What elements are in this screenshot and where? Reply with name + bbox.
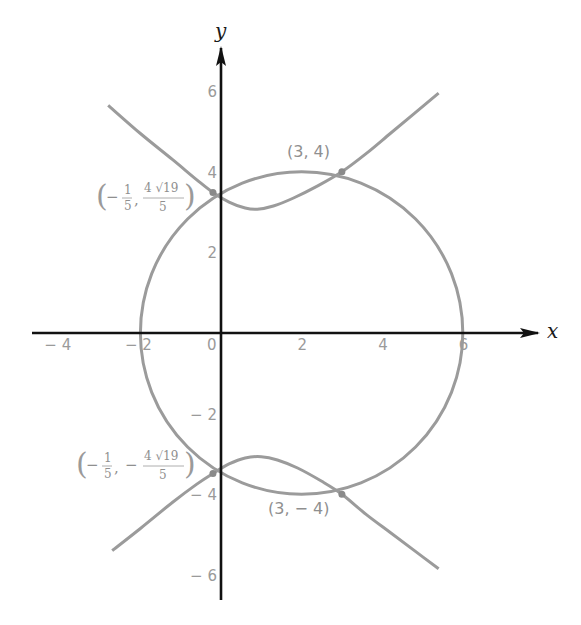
x-tick-label: − 4 bbox=[44, 336, 71, 354]
y-tick-label: 4 bbox=[207, 164, 217, 182]
point-label-neg-fifth-neg: ( − 1 5 , − 4 √19 5 ) bbox=[76, 446, 196, 482]
intersection-point bbox=[209, 470, 216, 477]
intersection-point bbox=[338, 491, 345, 498]
intersection-point bbox=[209, 189, 216, 196]
intersection-point bbox=[338, 168, 345, 175]
x-tick-label: 0 bbox=[207, 336, 217, 354]
label-denominator: 5 bbox=[124, 199, 132, 213]
label-numerator: 4 √19 bbox=[144, 181, 178, 195]
label-paren-close: ) bbox=[184, 446, 196, 481]
point-label-3-neg4: (3, − 4) bbox=[268, 499, 330, 518]
label-numerator: 4 √19 bbox=[144, 449, 178, 463]
x-tick-label: 6 bbox=[459, 336, 469, 354]
point-label-neg-fifth-pos: ( − 1 5 , 4 √19 5 ) bbox=[96, 178, 196, 214]
label-paren-close: ) bbox=[184, 178, 196, 213]
y-tick-label: 2 bbox=[207, 244, 217, 262]
y-tick-label: − 4 bbox=[190, 486, 217, 504]
label-minus: − bbox=[125, 456, 138, 474]
x-tick-label: 2 bbox=[298, 336, 308, 354]
y-axis-label: y bbox=[214, 19, 227, 43]
x-axis-label: x bbox=[547, 319, 558, 343]
graph-figure: x y − 4− 20246642− 2− 4− 6 (3, 4) (3, − … bbox=[0, 0, 581, 625]
plot-curves bbox=[108, 93, 463, 569]
label-minus: − bbox=[86, 456, 99, 474]
point-label-3-4: (3, 4) bbox=[287, 142, 330, 161]
label-comma: , bbox=[114, 459, 119, 477]
y-tick-label: − 2 bbox=[190, 406, 217, 424]
label-numerator: 1 bbox=[104, 451, 112, 465]
y-tick-label: 6 bbox=[207, 83, 217, 101]
label-numerator: 1 bbox=[124, 183, 132, 197]
x-tick-label: 4 bbox=[378, 336, 388, 354]
label-denominator: 5 bbox=[159, 468, 167, 482]
label-denominator: 5 bbox=[159, 200, 167, 214]
label-comma: , bbox=[134, 191, 139, 209]
y-tick-label: − 6 bbox=[190, 567, 217, 585]
x-tick-label: − 2 bbox=[125, 336, 152, 354]
label-denominator: 5 bbox=[104, 467, 112, 481]
label-minus: − bbox=[106, 188, 119, 206]
